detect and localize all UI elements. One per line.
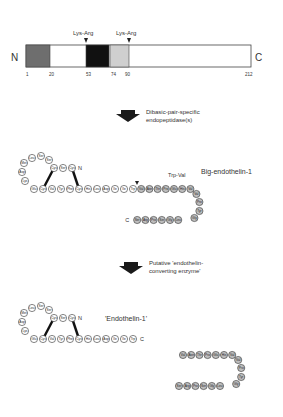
svg-text:Gly: Gly <box>192 216 197 220</box>
big-endothelin-1-title: Big-endothelin-1 <box>201 168 252 176</box>
svg-text:Asp: Asp <box>19 320 25 324</box>
svg-text:Pro: Pro <box>151 218 156 222</box>
cleavage-site-label: Lys-Arg <box>73 30 93 36</box>
residue-ser: Ser <box>175 382 182 389</box>
residue-position-label: 90 <box>125 72 131 77</box>
residue-asp: Asp <box>102 185 109 192</box>
svg-text:Ile: Ile <box>113 187 117 191</box>
svg-text:Asn: Asn <box>188 353 194 357</box>
residue-cys: Cys <box>39 185 46 192</box>
svg-text:Gly: Gly <box>234 382 239 386</box>
residue-leu: Leu <box>93 185 100 192</box>
svg-text:Asp: Asp <box>19 170 25 174</box>
domain-segment <box>26 45 50 67</box>
svg-text:Cys: Cys <box>40 337 46 341</box>
residue-ser: Ser <box>200 382 207 389</box>
residue-cys: Cys <box>75 185 82 192</box>
residue-ser: Ser <box>59 164 66 171</box>
svg-text:Leu: Leu <box>176 218 182 222</box>
arrowhead-icon <box>84 38 88 43</box>
endothelin-processing-diagram: NCLys-ArgLys-Arg120537490212Dibasic-pair… <box>0 0 283 417</box>
svg-text:Val: Val <box>50 187 55 191</box>
svg-text:Glu: Glu <box>32 187 37 191</box>
svg-text:Glu: Glu <box>32 337 37 341</box>
residue-leu: Leu <box>28 154 35 161</box>
residue-gly: Gly <box>166 216 173 223</box>
svg-text:Cys: Cys <box>76 187 82 191</box>
residue-lys: Lys <box>21 177 28 184</box>
cleavage-site-label: Lys-Arg <box>116 30 136 36</box>
c-terminus-label: C <box>125 217 129 223</box>
residue-asn: Asn <box>188 351 195 358</box>
step2-enzyme-label: Putative 'endothelin- <box>149 260 203 266</box>
residue-gly: Gly <box>233 380 240 387</box>
svg-text:Ile: Ile <box>122 187 126 191</box>
residue-arg: Arg <box>184 382 191 389</box>
residue-ser: Ser <box>37 302 44 309</box>
residue-arg: Arg <box>142 216 149 223</box>
svg-text:Val: Val <box>194 192 199 196</box>
residue-cys: Cys <box>50 164 57 171</box>
residue-asp: Asp <box>102 335 109 342</box>
residue-glu: Glu <box>30 185 37 192</box>
svg-text:Ile: Ile <box>122 337 126 341</box>
residue-ser: Ser <box>59 314 66 321</box>
svg-text:Leu: Leu <box>29 156 35 160</box>
svg-text:Glu: Glu <box>213 353 218 357</box>
residue-asp: Asp <box>18 168 25 175</box>
residue-glu: Glu <box>170 185 177 192</box>
precursor-bar <box>26 45 251 67</box>
residue-asp: Asp <box>18 318 25 325</box>
residue-his: His <box>84 185 91 192</box>
residue-ser: Ser <box>158 216 165 223</box>
residue-pro: Pro <box>192 382 199 389</box>
svg-text:Val: Val <box>139 187 144 191</box>
svg-text:His: His <box>222 353 227 357</box>
svg-text:Arg: Arg <box>185 384 190 388</box>
svg-text:Val: Val <box>188 187 193 191</box>
residue-met: Met <box>20 309 27 316</box>
residue-his: His <box>84 335 91 342</box>
residue-gly: Gly <box>208 382 215 389</box>
residue-pro: Pro <box>150 216 157 223</box>
residue-glu: Glu <box>212 351 219 358</box>
residue-val: Val <box>179 351 186 358</box>
svg-text:Arg: Arg <box>143 218 148 222</box>
svg-text:Cys: Cys <box>51 316 57 320</box>
svg-text:Asn: Asn <box>147 187 153 191</box>
residue-his: His <box>179 185 186 192</box>
residue-cys: Cys <box>68 314 75 321</box>
residue-position-label: 1 <box>26 72 29 77</box>
residue-met: Met <box>20 159 27 166</box>
svg-text:Leu: Leu <box>94 337 100 341</box>
residue-ser: Ser <box>37 152 44 159</box>
svg-text:Asp: Asp <box>103 187 109 191</box>
residue-trp: Trp <box>129 335 136 342</box>
residue-gly: Gly <box>191 214 198 221</box>
residue-ser: Ser <box>134 216 141 223</box>
svg-text:Glu: Glu <box>172 187 177 191</box>
residue-leu: Leu <box>175 216 182 223</box>
svg-text:Lys: Lys <box>23 179 28 183</box>
svg-text:Met: Met <box>21 311 26 315</box>
svg-text:Asp: Asp <box>103 337 109 341</box>
residue-phe: Phe <box>66 335 73 342</box>
svg-text:Phe: Phe <box>67 187 73 191</box>
residue-ile: Ile <box>111 335 118 342</box>
residue-cys: Cys <box>75 335 82 342</box>
svg-text:His: His <box>180 187 185 191</box>
svg-text:Val: Val <box>50 337 55 341</box>
svg-text:Trp: Trp <box>131 337 136 341</box>
residue-leu: Leu <box>93 335 100 342</box>
endothelin-1-structure: CysSerCysSerSerLeuMetAspLysGluCysValTyrP… <box>18 302 136 342</box>
svg-text:Lys: Lys <box>23 329 28 333</box>
c-terminus-label: C <box>255 52 262 63</box>
residue-pro: Pro <box>238 364 245 371</box>
n-terminus-label: N <box>78 315 82 321</box>
svg-text:Trp: Trp <box>131 187 136 191</box>
svg-text:Cys: Cys <box>76 337 82 341</box>
svg-text:Cys: Cys <box>69 166 75 170</box>
residue-val: Val <box>48 335 55 342</box>
step1-enzyme-label: endopeptidase(s) <box>146 117 192 123</box>
step2-enzyme-label: converting enzyme' <box>149 268 201 274</box>
